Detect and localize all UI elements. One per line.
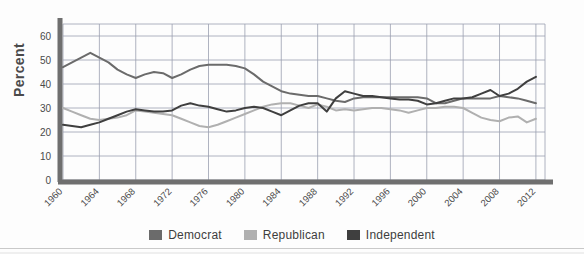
axis-lines [58, 18, 553, 182]
legend-label: Independent [366, 228, 435, 242]
svg-text:0: 0 [45, 175, 51, 186]
svg-text:1960: 1960 [42, 186, 65, 209]
svg-text:30: 30 [40, 103, 52, 114]
x-tick-labels: 1960196419681972197619801984198819921996… [42, 186, 538, 209]
plot-area: 0102030405060 19601964196819721976198019… [0, 0, 584, 254]
legend-swatch-icon [347, 230, 360, 240]
svg-text:1996: 1996 [369, 186, 392, 209]
svg-text:20: 20 [40, 127, 52, 138]
svg-text:40: 40 [40, 79, 52, 90]
legend-swatch-icon [244, 230, 257, 240]
legend-item-republican[interactable]: Republican [244, 228, 325, 242]
svg-text:1972: 1972 [151, 186, 174, 209]
legend-item-democrat[interactable]: Democrat [149, 228, 222, 242]
legend-item-independent[interactable]: Independent [347, 228, 435, 242]
legend-label: Democrat [168, 228, 222, 242]
legend-swatch-icon [149, 230, 162, 240]
svg-text:2004: 2004 [442, 186, 465, 209]
y-tick-labels: 0102030405060 [40, 31, 52, 186]
svg-text:1976: 1976 [187, 186, 210, 209]
svg-text:10: 10 [40, 151, 52, 162]
svg-text:1968: 1968 [114, 186, 137, 209]
legend-label: Republican [263, 228, 325, 242]
chart-page: Percent 0102030405060 196019641968197219… [0, 0, 584, 254]
svg-text:1992: 1992 [333, 186, 356, 209]
svg-text:2000: 2000 [405, 186, 428, 209]
line-chart-svg: 0102030405060 19601964196819721976198019… [0, 0, 584, 254]
svg-text:1980: 1980 [224, 186, 247, 209]
svg-text:1988: 1988 [296, 186, 319, 209]
svg-text:1984: 1984 [260, 186, 283, 209]
svg-text:60: 60 [40, 31, 52, 42]
svg-text:1964: 1964 [78, 186, 101, 209]
svg-text:2008: 2008 [478, 186, 501, 209]
chart-legend: DemocratRepublicanIndependent [0, 226, 584, 244]
divider-rule [0, 248, 584, 249]
data-series-lines [63, 53, 536, 127]
svg-text:50: 50 [40, 55, 52, 66]
svg-text:2012: 2012 [515, 186, 538, 209]
gridlines [63, 24, 545, 180]
